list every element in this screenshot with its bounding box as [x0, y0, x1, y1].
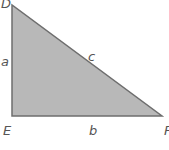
side-label-c: c [88, 49, 95, 64]
vertex-label-f: F [164, 123, 169, 138]
triangle-def [12, 5, 162, 116]
side-label-a: a [1, 54, 9, 69]
vertex-label-e: E [3, 123, 12, 138]
side-label-b: b [89, 123, 97, 138]
vertex-label-d: D [1, 0, 11, 11]
right-triangle-diagram: D a c E b F [0, 0, 169, 150]
